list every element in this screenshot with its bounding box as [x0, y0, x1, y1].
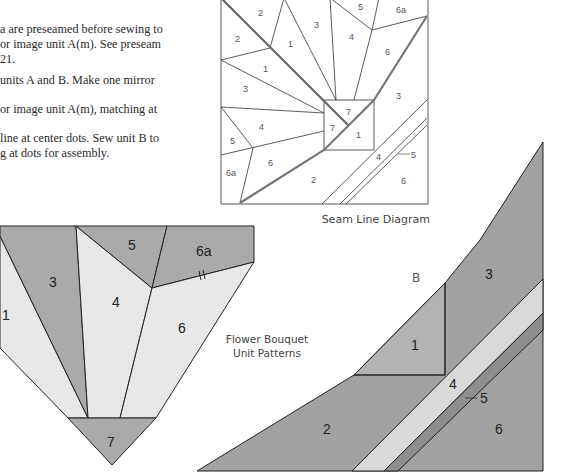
- svg-text:3: 3: [396, 91, 401, 101]
- svg-text:3: 3: [485, 266, 493, 282]
- svg-text:6: 6: [401, 176, 406, 186]
- svg-text:1: 1: [263, 64, 268, 74]
- svg-text:2: 2: [311, 175, 316, 185]
- pattern-drawing: 2 2 1 1 3 3 5 6a 4 6 7 7 1 3 4 5 5 6 6a …: [0, 0, 568, 474]
- svg-text:6: 6: [495, 421, 503, 437]
- svg-text:4: 4: [112, 294, 120, 310]
- svg-text:5: 5: [358, 2, 363, 12]
- unit-a-pattern: [0, 226, 254, 465]
- unit-b-piece-1: [354, 283, 445, 375]
- svg-text:B: B: [412, 271, 420, 285]
- svg-text:7: 7: [330, 123, 335, 133]
- svg-text:3: 3: [49, 274, 57, 290]
- svg-text:7: 7: [346, 107, 351, 117]
- svg-text:2: 2: [235, 34, 240, 44]
- svg-text:4: 4: [349, 32, 354, 42]
- seam-diagram-caption: Seam Line Diagram: [300, 213, 430, 227]
- svg-text:6a: 6a: [396, 5, 406, 15]
- svg-text:4: 4: [449, 376, 457, 392]
- svg-text:7: 7: [107, 434, 115, 450]
- svg-text:1: 1: [2, 307, 10, 323]
- svg-text:2: 2: [323, 421, 331, 437]
- unit-patterns-caption: Flower Bouquet Unit Patterns: [222, 332, 312, 360]
- svg-text:1: 1: [411, 337, 419, 353]
- svg-text:4: 4: [259, 122, 264, 132]
- seam-line-diagram: [221, 0, 428, 204]
- svg-text:1: 1: [356, 130, 361, 140]
- svg-text:5: 5: [480, 390, 488, 406]
- svg-text:5: 5: [411, 150, 416, 160]
- svg-text:3: 3: [314, 20, 319, 30]
- svg-text:4: 4: [376, 152, 381, 162]
- svg-text:6: 6: [268, 158, 273, 168]
- svg-text:6: 6: [385, 47, 390, 57]
- svg-text:6a: 6a: [226, 168, 236, 178]
- svg-text:6: 6: [178, 320, 186, 336]
- svg-text:1: 1: [288, 39, 293, 49]
- svg-text:5: 5: [230, 136, 235, 146]
- svg-text:6a: 6a: [196, 243, 212, 259]
- svg-text:5: 5: [128, 237, 136, 253]
- svg-text:2: 2: [258, 8, 263, 18]
- svg-text:3: 3: [243, 84, 248, 94]
